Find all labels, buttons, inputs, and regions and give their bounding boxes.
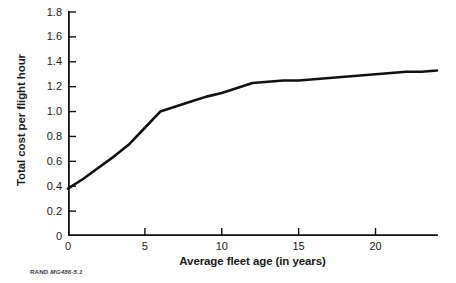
- source-note-id: MG486-5.1: [50, 268, 82, 275]
- plot-area: [68, 12, 437, 236]
- y-tick-label: 0.2: [2, 206, 62, 217]
- x-tick-label: 20: [356, 240, 396, 252]
- x-tick-label: 5: [125, 240, 165, 252]
- y-tick-label: 1.4: [2, 56, 62, 67]
- x-axis-title: Average fleet age (in years): [68, 255, 437, 267]
- x-tick-label: 10: [202, 240, 242, 252]
- source-note-prefix: RAND: [30, 268, 48, 275]
- data-series-line: [68, 70, 437, 188]
- source-note: RAND MG486-5.1: [30, 268, 83, 275]
- y-tick-label: 0.8: [2, 131, 62, 142]
- y-tick-label: 0.6: [2, 156, 62, 167]
- figure-container: Total cost per flight hour 00.20.40.60.8…: [0, 0, 456, 283]
- y-tick-label: 1.6: [2, 31, 62, 42]
- y-tick-label: 1.8: [2, 7, 62, 18]
- x-tick-label: 15: [279, 240, 319, 252]
- x-tick-label: 0: [48, 240, 88, 252]
- y-tick-label: 0.4: [2, 181, 62, 192]
- y-axis-tick-labels: 00.20.40.60.81.01.21.41.61.8: [0, 12, 62, 236]
- axis-lines: [69, 12, 437, 235]
- y-tick-label: 1.0: [2, 106, 62, 117]
- axis-tick-marks: [69, 12, 376, 235]
- x-axis-tick-labels: 05101520: [68, 240, 448, 254]
- y-tick-label: 1.2: [2, 81, 62, 92]
- chart-svg: [68, 12, 437, 236]
